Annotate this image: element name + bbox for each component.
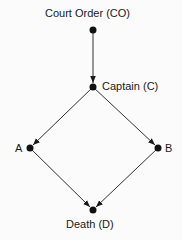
node-co <box>90 27 97 34</box>
edge-b-d <box>96 148 158 207</box>
node-a <box>27 145 34 152</box>
causal-graph <box>0 0 182 240</box>
label-b: B <box>165 142 172 154</box>
label-death: Death (D) <box>66 218 114 230</box>
label-captain: Captain (C) <box>102 80 158 92</box>
node-c <box>90 84 97 91</box>
label-court-order: Court Order (CO) <box>45 7 130 19</box>
label-a: A <box>15 142 22 154</box>
node-b <box>155 145 162 152</box>
edge-c-b <box>93 87 155 145</box>
edge-a-d <box>30 148 90 207</box>
edge-c-a <box>33 87 93 145</box>
node-d <box>90 207 97 214</box>
